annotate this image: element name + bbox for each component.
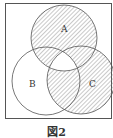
- figure-caption: 図2: [0, 123, 113, 138]
- label-b: B: [29, 79, 36, 89]
- venn-diagram: A B C: [0, 0, 113, 122]
- label-a: A: [60, 24, 68, 34]
- label-c: C: [89, 79, 96, 89]
